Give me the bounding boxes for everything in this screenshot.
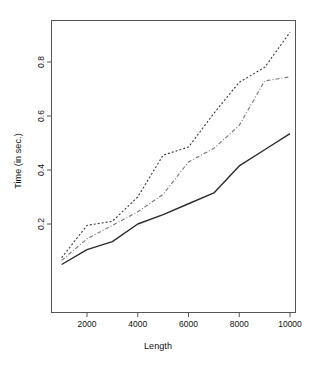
y-tick-label: 0.4 (36, 164, 46, 176)
x-tick-label: 8000 (230, 319, 249, 329)
x-tick-label: 4000 (128, 319, 147, 329)
y-tick-label: 0.2 (36, 218, 46, 230)
x-axis-title: Length (0, 341, 316, 351)
x-tick-label: 2000 (78, 319, 97, 329)
y-axis-title: Time (in sec.) (13, 133, 23, 189)
x-tick-label: 10000 (278, 319, 302, 329)
chart-background (0, 0, 316, 366)
chart-plot: 200040006000800010000 0.20.40.60.8 (0, 0, 316, 366)
x-tick-label: 6000 (179, 319, 198, 329)
y-axis-title-wrapper: Time (in sec.) (7, 81, 25, 241)
chart-container: 200040006000800010000 0.20.40.60.8 Lengt… (0, 0, 316, 366)
y-tick-label: 0.8 (36, 56, 46, 68)
y-tick-label: 0.6 (36, 110, 46, 122)
